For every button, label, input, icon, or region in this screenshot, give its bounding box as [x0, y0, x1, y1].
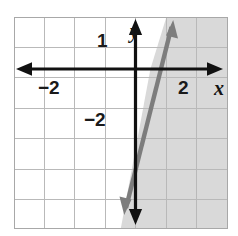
- x-axis-label: x: [214, 78, 224, 98]
- y-axis-label: y: [130, 21, 139, 41]
- tick-label-x-neg2: −2: [38, 78, 60, 97]
- coordinate-plane-graph: −2 2 1 −2 x y: [0, 0, 238, 236]
- tick-label-x-pos2: 2: [178, 78, 189, 97]
- tick-label-y-pos1: 1: [97, 31, 108, 50]
- plot-canvas: [0, 0, 238, 236]
- tick-label-y-neg2: −2: [84, 110, 106, 129]
